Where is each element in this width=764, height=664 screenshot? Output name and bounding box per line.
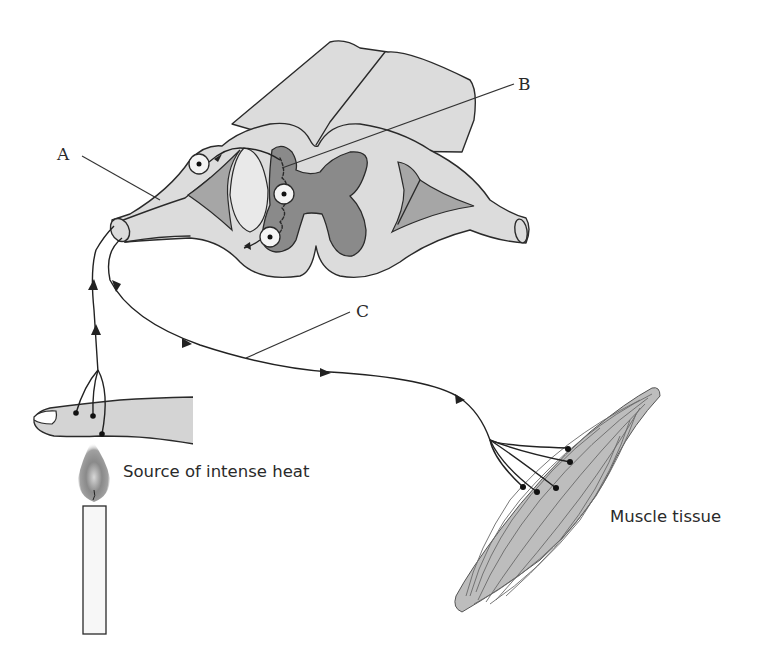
spinal-cord: [107, 41, 529, 278]
motor-end-plate: [534, 489, 540, 495]
motor-end-plate: [553, 485, 559, 491]
finger-skin: [34, 397, 194, 444]
muscle-caption: Muscle tissue: [610, 507, 721, 526]
receptor-ending: [90, 413, 96, 419]
motor-end-plate: [565, 446, 571, 452]
receptor-ending: [73, 410, 79, 416]
motor-neuron-cell-body: [260, 227, 280, 247]
fingernail-icon: [34, 411, 57, 424]
arrow-icon: [455, 394, 465, 404]
label-C-leader: [246, 312, 350, 358]
interneuron-cell-body: [274, 184, 294, 204]
motor-end-plate: [520, 484, 526, 490]
reflex-arc-diagram: A B C Source of intense heat: [0, 0, 764, 664]
candle: [78, 440, 110, 634]
heat-source-caption: Source of intense heat: [123, 462, 310, 481]
muscle-tissue: [455, 388, 660, 612]
sensory-neuron-cell-body: [189, 154, 209, 174]
arrow-icon: [91, 324, 101, 335]
receptor-ending: [99, 431, 105, 437]
motor-end-plate: [567, 459, 573, 465]
finger: [34, 370, 194, 445]
motor-branch: [490, 440, 523, 487]
label-A: A: [56, 144, 70, 164]
flame-icon: [78, 440, 110, 502]
candle-body: [83, 506, 106, 634]
arrow-icon: [320, 368, 331, 377]
label-A-leader: [82, 156, 160, 200]
label-C: C: [356, 301, 369, 321]
label-B: B: [518, 74, 531, 94]
sensory-neuron-fiber: [92, 226, 114, 372]
